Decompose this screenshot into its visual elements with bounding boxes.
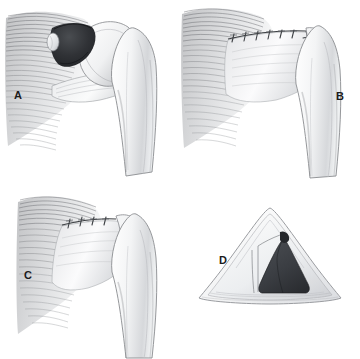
panel-label-c: C bbox=[24, 270, 32, 281]
figure-root: A B C D bbox=[0, 0, 360, 359]
panel-b-repair-long bbox=[180, 0, 360, 180]
bone-fragment bbox=[47, 33, 59, 51]
panel-d-cross-section bbox=[180, 180, 360, 359]
humeral-shaft bbox=[111, 28, 156, 176]
panel-label-b: B bbox=[336, 91, 344, 102]
panel-label-d: D bbox=[219, 255, 227, 266]
humeral-shaft bbox=[296, 26, 341, 178]
panel-a-tear bbox=[0, 0, 180, 180]
panel-label-a: A bbox=[14, 90, 22, 101]
